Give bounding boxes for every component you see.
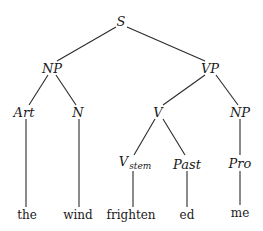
- node-np: NP: [42, 62, 62, 75]
- leaf-frighten: frighten: [106, 209, 155, 221]
- node-v-stem: Vstem: [119, 155, 152, 171]
- node-past: Past: [173, 158, 201, 171]
- edge-v-past: [163, 119, 185, 155]
- edge-vp-v: [163, 75, 205, 105]
- node-art: Art: [14, 106, 35, 119]
- edge-v-vstem: [134, 119, 155, 155]
- edge-np-n: [56, 75, 76, 105]
- tree-edges: [0, 0, 263, 231]
- node-v-stem-label: V: [119, 154, 128, 169]
- leaf-wind: wind: [63, 209, 93, 221]
- node-np-object: NP: [230, 106, 250, 119]
- node-v-stem-subscript: stem: [129, 161, 151, 171]
- node-v: V: [153, 106, 162, 119]
- node-vp: VP: [201, 62, 219, 75]
- leaf-me: me: [231, 207, 249, 219]
- leaf-ed: ed: [180, 209, 195, 221]
- edge-s-np: [57, 27, 116, 61]
- edge-vp-np: [216, 75, 238, 105]
- node-pro: Pro: [229, 157, 252, 170]
- edge-s-vp: [127, 27, 205, 61]
- edge-np-art: [29, 75, 48, 105]
- node-n: N: [72, 106, 83, 119]
- leaf-the: the: [17, 209, 37, 221]
- node-s: S: [117, 15, 126, 28]
